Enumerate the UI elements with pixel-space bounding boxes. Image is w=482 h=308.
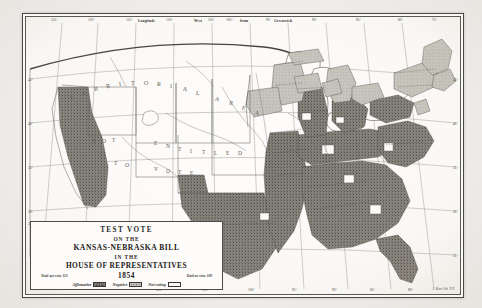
margin-word-greenwich: Greenwich — [274, 19, 292, 23]
bottom-tick-2: 100° — [248, 289, 255, 292]
top-tick-6: 95° — [266, 19, 271, 22]
top-tick-7: 90° — [312, 19, 317, 22]
legend-item-affirmative: Affirmative — [72, 282, 106, 288]
cartouche-line-5: HOUSE OF REPRESENTATIVES — [35, 261, 218, 270]
legend-item-negative: Negative — [112, 282, 142, 288]
map-legend: Affirmative Negative Not voting — [35, 282, 218, 288]
top-tick-1: 120° — [88, 19, 95, 22]
bottom-tick-6: 80° — [408, 289, 413, 292]
margin-word-west: West — [194, 19, 202, 23]
top-tick-9: 80° — [398, 19, 403, 22]
bottom-tick-4: 90° — [332, 289, 337, 292]
margin-word-longitude: Longitude — [138, 19, 155, 23]
legend-label-not-voting: Not voting — [148, 282, 166, 287]
left-tick-0: 45° — [28, 79, 33, 82]
legend-swatch-negative — [129, 282, 142, 288]
tally-aye: Total aye vote, 113 — [41, 274, 68, 278]
bottom-tick-5: 85° — [370, 289, 375, 292]
engraver-credit: J. Bien lith. N.Y. — [433, 287, 456, 291]
right-tick-2: 35° — [453, 167, 458, 170]
top-tick-2: 115° — [126, 19, 133, 22]
left-tick-1: 40° — [28, 123, 33, 126]
map-plate: Longitude West from Greenwich 125° 120° … — [26, 17, 460, 294]
legend-item-not-voting: Not voting — [148, 282, 181, 288]
top-tick-10: 75° — [432, 19, 437, 22]
top-tick-0: 125° — [51, 19, 58, 22]
title-cartouche: TEST VOTE ON THE KANSAS-NEBRASKA BILL IN… — [30, 221, 223, 290]
legend-label-negative: Negative — [112, 282, 127, 287]
right-tick-4: 25° — [453, 255, 458, 258]
top-tick-5: 100° — [226, 19, 233, 22]
legend-label-affirmative: Affirmative — [72, 282, 91, 287]
margin-word-from: from — [240, 19, 248, 23]
top-tick-8: 85° — [356, 19, 361, 22]
legend-swatch-affirmative — [93, 282, 106, 288]
cartouche-line-3: KANSAS-NEBRASKA BILL — [35, 243, 218, 252]
right-tick-3: 30° — [453, 211, 458, 214]
cartouche-line-1: TEST VOTE — [35, 226, 218, 234]
map-outer-frame: Longitude West from Greenwich 125° 120° … — [22, 13, 464, 298]
tally-no: Total no vote, 100 — [186, 274, 212, 278]
top-tick-4: 105° — [208, 19, 215, 22]
right-tick-1: 40° — [453, 123, 458, 126]
left-tick-3: 30° — [28, 211, 33, 214]
top-tick-3: 110° — [166, 19, 173, 22]
legend-swatch-not-voting — [168, 282, 181, 288]
bottom-tick-3: 95° — [292, 289, 297, 292]
cartouche-line-4: IN THE — [35, 254, 218, 260]
vote-tallies: Total aye vote, 113 1854 Total no vote, … — [35, 271, 218, 280]
left-tick-2: 35° — [28, 167, 33, 170]
right-tick-0: 45° — [453, 79, 458, 82]
cartouche-year: 1854 — [118, 271, 135, 280]
cartouche-line-2: ON THE — [35, 236, 218, 242]
